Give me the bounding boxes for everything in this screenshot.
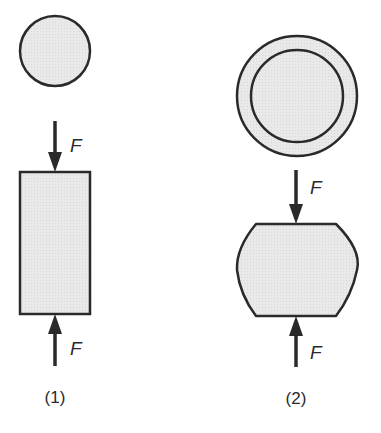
specimen-straight-cylinder — [20, 172, 90, 314]
force-label-top: F — [70, 135, 83, 156]
force-arrow-up-icon — [289, 316, 303, 367]
force-label-bottom: F — [70, 338, 83, 359]
figure-caption-2: (2) — [286, 389, 307, 408]
cross-section-inner-circle — [251, 50, 343, 142]
force-arrow-up-icon — [48, 314, 62, 366]
figure-caption-1: (1) — [45, 388, 66, 407]
force-arrow-down-icon — [48, 121, 62, 172]
cross-section-solid-circle — [20, 16, 90, 86]
specimen-barreled-cylinder — [237, 224, 358, 316]
figure-2: F F (2) — [237, 36, 358, 408]
figure-1: F F (1) — [20, 16, 90, 407]
force-arrow-down-icon — [289, 170, 303, 224]
force-label-bottom: F — [310, 342, 323, 363]
compression-diagram: F F (1) F F (2) — [0, 0, 381, 433]
force-label-top: F — [310, 177, 323, 198]
